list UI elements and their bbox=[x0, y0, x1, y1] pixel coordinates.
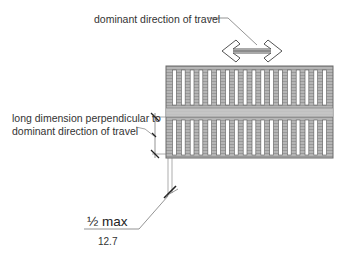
grate-slot bbox=[314, 70, 318, 105]
grate-slot bbox=[296, 120, 300, 155]
grate-slot bbox=[323, 70, 327, 105]
grate-slot bbox=[190, 70, 194, 105]
max-gap-label: ½ max bbox=[87, 214, 128, 229]
grate-slot bbox=[190, 120, 194, 155]
double-arrow-icon bbox=[222, 40, 282, 62]
long-dimension-label-line1: long dimension perpendicular to bbox=[12, 112, 161, 125]
grate-slot bbox=[181, 70, 185, 105]
grate-slot bbox=[243, 70, 247, 105]
grate-slot bbox=[173, 120, 177, 155]
grate-slot bbox=[199, 70, 203, 105]
grate-slot bbox=[226, 70, 230, 105]
grate-slot bbox=[199, 120, 203, 155]
grate-slot bbox=[287, 70, 291, 105]
long-dimension-label-line2: dominant direction of travel bbox=[12, 125, 161, 138]
grate-slot bbox=[323, 120, 327, 155]
grate-slot bbox=[314, 120, 318, 155]
grate-slot bbox=[279, 70, 283, 105]
grate-slot bbox=[305, 70, 309, 105]
grate-slot bbox=[243, 120, 247, 155]
grate-slot bbox=[208, 70, 212, 105]
grate-slot bbox=[270, 120, 274, 155]
grate-slot bbox=[217, 120, 221, 155]
grate-slot bbox=[261, 120, 265, 155]
max-gap-metric-label: 12.7 bbox=[98, 236, 117, 247]
grate-slot bbox=[252, 120, 256, 155]
long-dimension-label: long dimension perpendicular to dominant… bbox=[12, 112, 161, 138]
grate-slot bbox=[234, 120, 238, 155]
grate-slot bbox=[270, 70, 274, 105]
grate-slot bbox=[279, 120, 283, 155]
grate-slot bbox=[173, 70, 177, 105]
grate-slot bbox=[296, 70, 300, 105]
grate-slot bbox=[208, 120, 212, 155]
grate-slot bbox=[261, 70, 265, 105]
grate-slot bbox=[305, 120, 309, 155]
grate-slot bbox=[226, 120, 230, 155]
travel-direction-label: dominant direction of travel bbox=[94, 13, 220, 25]
grate-slot bbox=[181, 120, 185, 155]
grate bbox=[166, 66, 333, 158]
grate-slot bbox=[252, 70, 256, 105]
grate-slot bbox=[217, 70, 221, 105]
grate-slot bbox=[287, 120, 291, 155]
grate-slot bbox=[234, 70, 238, 105]
